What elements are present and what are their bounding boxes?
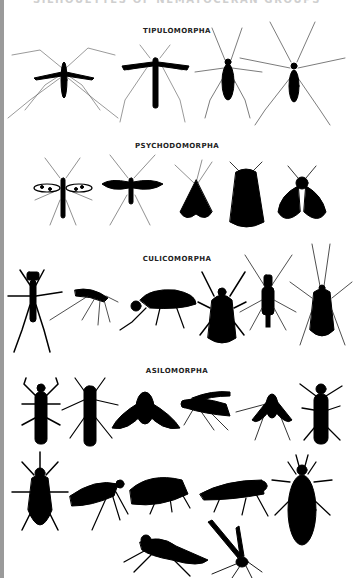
- dark-wing-gnat-icon: [102, 155, 163, 225]
- biting-midge-icon: [240, 255, 296, 330]
- horse-fly-top-icon: [12, 452, 68, 530]
- flower-fly-side-icon: [130, 478, 190, 514]
- black-fly-top-icon: [198, 272, 246, 343]
- dance-fly-side-icon: [208, 520, 262, 578]
- winter-crane-fly-icon: [195, 28, 262, 118]
- long-legged-fly-side-icon: [200, 480, 268, 516]
- moth-fly-tent-icon: [175, 160, 212, 218]
- snipe-fly-side-icon: [70, 480, 128, 530]
- small-bee-fly-icon: [236, 394, 292, 440]
- long-antenna-midge-icon: [290, 244, 352, 345]
- spotted-wing-gnat-icon: [34, 158, 92, 225]
- bee-fly-icon: [112, 392, 180, 429]
- soldier-fly-top-icon: [272, 455, 332, 545]
- wingless-crane-fly-icon: [240, 22, 345, 125]
- slender-fly-top-icon: [62, 378, 118, 446]
- silhouette-plate: [0, 0, 354, 578]
- robber-fly-side-icon: [124, 535, 208, 576]
- black-fly-side-icon: [120, 290, 196, 330]
- robber-fly-top-icon: [22, 378, 60, 444]
- mosquito-side-icon: [50, 289, 118, 325]
- moth-fly-round-icon: [278, 166, 326, 219]
- stiletto-fly-icon: [300, 384, 342, 444]
- water-midge-icon: [8, 270, 62, 352]
- crane-fly-wings-folded-icon: [120, 45, 189, 122]
- crane-fly-wings-spread-icon: [8, 48, 118, 118]
- soldier-fly-side-icon: [181, 392, 230, 430]
- moth-fly-broad-icon: [230, 162, 264, 227]
